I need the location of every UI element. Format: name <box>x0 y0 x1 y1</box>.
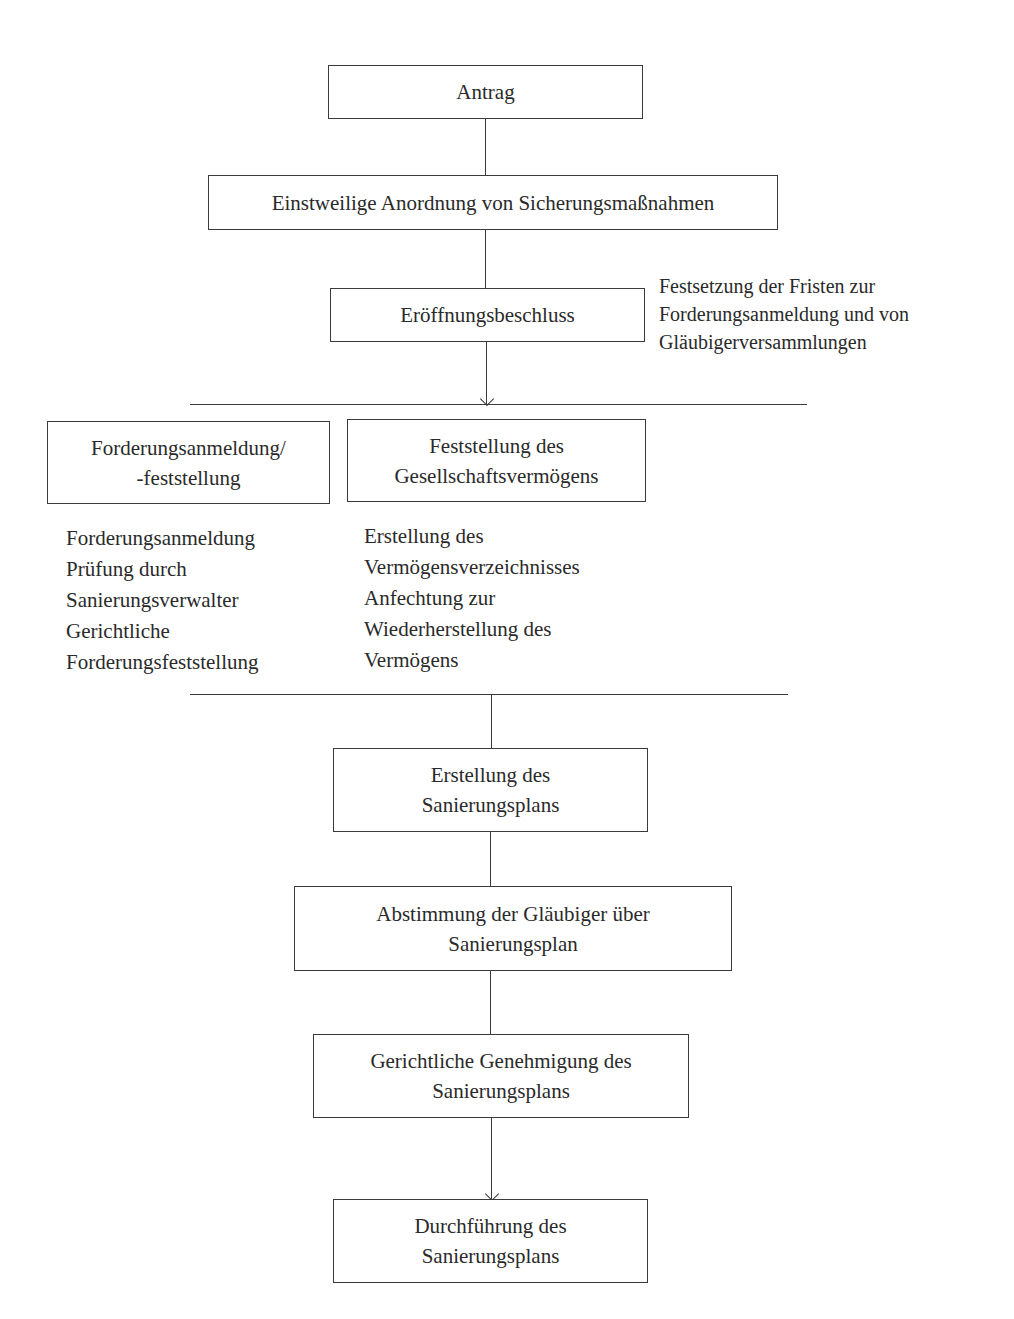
step-genehmigung-line: Sanierungsplans <box>432 1076 570 1106</box>
detail-line: Prüfung durch <box>66 554 258 585</box>
detail-line: Vermögensverzeichnisses <box>364 552 580 583</box>
step-erstellung-line: Sanierungsplans <box>422 790 560 820</box>
detail-line: Wiederherstellung des <box>364 614 580 645</box>
step-forderungsanmeldung: Forderungsanmeldung/ -feststellung <box>47 421 330 504</box>
connector-2 <box>485 230 486 288</box>
step-eroeffnungsbeschluss: Eröffnungsbeschluss <box>330 288 645 342</box>
step-gesellschaftsvermoegen: Feststellung des Gesellschaftsvermögens <box>347 419 646 502</box>
step-gesellschaftsvermoegen-line: Gesellschaftsvermögens <box>394 461 598 491</box>
detail-line: Gerichtliche <box>66 616 258 647</box>
detail-line: Sanierungsverwalter <box>66 585 258 616</box>
detail-line: Forderungsanmeldung <box>66 523 258 554</box>
step-antrag-label: Antrag <box>456 77 514 107</box>
step-genehmigung-line: Gerichtliche Genehmigung des <box>370 1046 631 1076</box>
detail-line: Erstellung des <box>364 521 580 552</box>
detail-line: Anfechtung zur <box>364 583 580 614</box>
step-sicherungsmassnahmen: Einstweilige Anordnung von Sicherungsmaß… <box>208 175 778 230</box>
connector-5 <box>490 832 491 886</box>
connector-1 <box>485 119 486 175</box>
step-abstimmung-line: Sanierungsplan <box>448 929 577 959</box>
step-abstimmung-line: Abstimmung der Gläubiger über <box>376 899 650 929</box>
connector-6 <box>490 971 491 1034</box>
connector-4 <box>491 694 492 748</box>
step-durchfuehrung-line: Durchführung des <box>414 1211 566 1241</box>
vermoegen-details: Erstellung des Vermögensverzeichnisses A… <box>364 521 580 676</box>
divider-line-1 <box>190 404 807 405</box>
step-sicherungsmassnahmen-label: Einstweilige Anordnung von Sicherungsmaß… <box>272 188 715 218</box>
divider-line-2 <box>190 694 788 695</box>
side-note-line: Forderungsanmeldung und von <box>659 300 909 328</box>
step-forderungsanmeldung-line: -feststellung <box>137 463 241 493</box>
step-erstellung-line: Erstellung des <box>431 760 551 790</box>
step-genehmigung: Gerichtliche Genehmigung des Sanierungsp… <box>313 1034 689 1118</box>
detail-line: Vermögens <box>364 645 580 676</box>
step-erstellung-sanierungsplan: Erstellung des Sanierungsplans <box>333 748 648 832</box>
side-note-line: Festsetzung der Fristen zur <box>659 272 909 300</box>
step-durchfuehrung: Durchführung des Sanierungsplans <box>333 1199 648 1283</box>
step-eroeffnungsbeschluss-label: Eröffnungsbeschluss <box>400 300 575 330</box>
side-note-fristen: Festsetzung der Fristen zur Forderungsan… <box>659 272 909 356</box>
step-gesellschaftsvermoegen-line: Feststellung des <box>429 431 564 461</box>
forderung-details: Forderungsanmeldung Prüfung durch Sanier… <box>66 523 258 678</box>
detail-line: Forderungsfeststellung <box>66 647 258 678</box>
step-abstimmung: Abstimmung der Gläubiger über Sanierungs… <box>294 886 732 971</box>
step-antrag: Antrag <box>328 65 643 119</box>
side-note-line: Gläubigerversammlungen <box>659 328 909 356</box>
step-forderungsanmeldung-line: Forderungsanmeldung/ <box>91 433 286 463</box>
step-durchfuehrung-line: Sanierungsplans <box>422 1241 560 1271</box>
